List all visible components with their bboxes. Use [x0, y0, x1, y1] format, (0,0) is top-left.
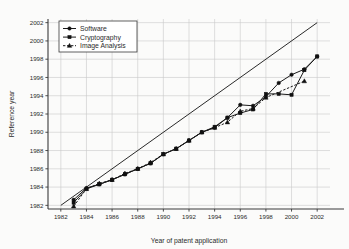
x-axis-tick-label: 1990 — [156, 213, 170, 220]
y-axis-title: Reference year — [8, 90, 16, 137]
legend-marker-circle — [68, 27, 72, 31]
data-point — [290, 73, 294, 77]
y-axis-tick-label: 1988 — [30, 147, 44, 154]
data-point — [226, 116, 229, 119]
x-axis-tick-label: 2000 — [285, 213, 299, 220]
data-point — [239, 103, 243, 107]
y-axis-tick-label: 1982 — [30, 202, 44, 209]
x-axis-tick-label: 1992 — [182, 213, 196, 220]
y-axis-tick-label: 1984 — [30, 183, 44, 190]
x-axis-tick-label: 1986 — [105, 213, 119, 220]
y-axis-tick-label: 2002 — [30, 19, 44, 26]
x-axis-tick-label: 1996 — [233, 213, 247, 220]
y-axis-tick-label: 1992 — [30, 110, 44, 117]
x-axis-tick-label: 1998 — [259, 213, 273, 220]
data-point — [316, 55, 319, 58]
chart-figure: 1982198419861988199019921994199619982000… — [0, 0, 349, 249]
x-axis-tick-label: 2002 — [310, 213, 324, 220]
series-path — [74, 56, 318, 199]
y-axis-tick-label: 1994 — [30, 92, 44, 99]
legend-label: Image Analysis — [80, 42, 126, 50]
data-point — [290, 93, 293, 96]
data-point — [277, 81, 281, 85]
legend-label: Cryptography — [80, 34, 121, 42]
x-axis-tick-label: 1984 — [80, 213, 94, 220]
data-point — [303, 69, 306, 72]
data-point — [302, 79, 306, 83]
x-axis-title: Year of patent application — [151, 237, 228, 245]
y-axis-tick-label: 1996 — [30, 74, 44, 81]
chart-legend: SoftwareCryptographyImage Analysis — [59, 21, 137, 52]
y-axis-tick-label: 2000 — [30, 37, 44, 44]
y-axis-tick-label: 1990 — [30, 128, 44, 135]
legend-marker-square — [68, 35, 71, 38]
x-axis-tick-label: 1994 — [208, 213, 222, 220]
series-software — [72, 55, 319, 202]
legend-label: Software — [80, 25, 107, 32]
y-axis-tick-label: 1986 — [30, 165, 44, 172]
x-axis-tick-label: 1982 — [54, 213, 68, 220]
chart-canvas: 1982198419861988199019921994199619982000… — [0, 0, 349, 249]
y-axis-tick-label: 1998 — [30, 55, 44, 62]
x-axis-tick-label: 1988 — [131, 213, 145, 220]
